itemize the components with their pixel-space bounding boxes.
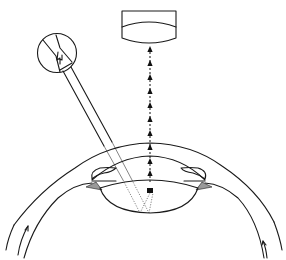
- objective-lens: [122, 11, 176, 43]
- eye-diagram-svg: [0, 0, 286, 260]
- lens-marker: [147, 188, 153, 193]
- diagram-canvas: [0, 0, 286, 260]
- crystalline-lens: [100, 180, 198, 213]
- beam-arrows: [147, 46, 152, 183]
- eye-cornea-sclera: [6, 143, 282, 258]
- light-paths: [104, 142, 153, 213]
- probe: [38, 34, 113, 147]
